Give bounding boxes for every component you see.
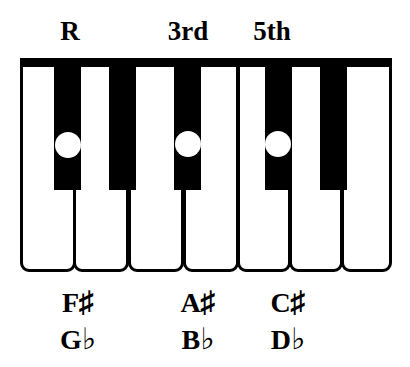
note-dot-fifth (265, 131, 291, 157)
note-name-sharp-3: C♯ (258, 287, 318, 317)
note-name-flat-2: B♭ (168, 324, 228, 354)
note-letter-b: B (182, 324, 201, 355)
note-letter-c: C (270, 287, 290, 318)
note-letter-a: A (180, 287, 200, 318)
black-key-c-sharp[interactable] (265, 58, 292, 190)
piano-keyboard (20, 58, 392, 272)
white-key-7[interactable] (341, 58, 392, 272)
note-dot-third (175, 131, 201, 157)
black-key-g-sharp[interactable] (109, 58, 136, 190)
piano-chord-diagram: R 3rd 5th F♯ A♯ C♯ G♭ (0, 0, 410, 367)
black-key-d-sharp[interactable] (320, 58, 347, 190)
sharp-icon: ♯ (291, 285, 306, 318)
note-letter-g: G (60, 324, 82, 355)
degree-label-root: R (48, 18, 92, 45)
note-letter-f: F (62, 287, 79, 318)
note-dot-root (55, 132, 81, 158)
sharp-icon: ♯ (79, 285, 94, 318)
note-name-sharp-2: A♯ (168, 287, 228, 317)
sharp-icon: ♯ (201, 285, 216, 318)
note-name-sharp-1: F♯ (48, 287, 108, 317)
flat-icon: ♭ (82, 322, 96, 355)
flat-icon: ♭ (291, 322, 305, 355)
black-key-a-sharp[interactable] (174, 58, 201, 190)
note-letter-d: D (271, 324, 291, 355)
degree-label-fifth: 5th (242, 18, 302, 45)
note-name-flat-1: G♭ (48, 324, 108, 354)
black-key-f-sharp[interactable] (54, 58, 81, 190)
flat-icon: ♭ (200, 322, 214, 355)
degree-label-third: 3rd (158, 18, 218, 45)
note-name-flat-3: D♭ (258, 324, 318, 354)
